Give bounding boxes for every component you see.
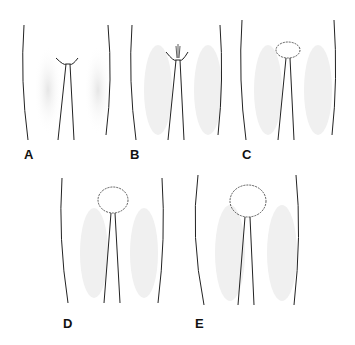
- panel-d: [58, 178, 168, 308]
- panel-label-b: B: [130, 147, 139, 162]
- panel-label-d: D: [63, 316, 72, 331]
- schematic-outline-c: [238, 20, 338, 145]
- schematic-outline-b: [128, 20, 228, 145]
- schematic-outline-a: [18, 20, 118, 145]
- panel-label-a: A: [24, 147, 33, 162]
- panel-e: [190, 175, 310, 310]
- panel-label-c: C: [242, 147, 251, 162]
- schematic-outline-d: [58, 178, 168, 308]
- panel-a: [18, 20, 118, 145]
- panel-b: [128, 20, 228, 145]
- schematic-outline-e: [190, 175, 310, 310]
- panel-c: [238, 20, 338, 145]
- panel-label-e: E: [195, 316, 204, 331]
